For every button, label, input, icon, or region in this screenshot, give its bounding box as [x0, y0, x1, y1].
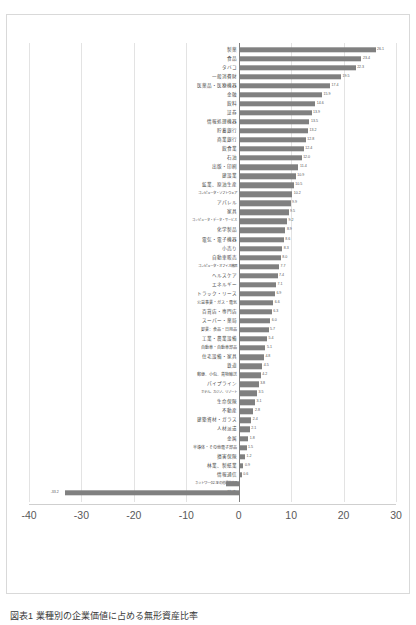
bar-category-label: 製薬	[227, 47, 237, 52]
x-tick-label: -30	[74, 509, 89, 521]
bar-row: パイプライン3.8	[7, 380, 411, 389]
bar	[239, 164, 299, 169]
bar	[239, 137, 306, 142]
bar	[239, 92, 322, 97]
bar-row: 半導体・その他電子部品1.5	[7, 443, 411, 452]
figure-caption: 図表1 業種別の企業価値に占める無形資産比率	[10, 609, 198, 622]
bar	[239, 427, 250, 432]
bar-row: 不動産2.8	[7, 407, 411, 416]
bar	[239, 65, 356, 70]
bar-category-label: コンピュータ・オフィス機器	[198, 265, 237, 269]
bar-row: コンピュータ・ソフトウェア10.2	[7, 190, 411, 199]
bar-row: 金融15.9	[7, 90, 411, 99]
bar	[239, 391, 257, 396]
bar-row: 飲料14.6	[7, 99, 411, 108]
bar	[239, 400, 255, 405]
bar-row: 損害保険1.2	[7, 452, 411, 461]
bar-row: コンピュータ・オフィス機器7.7	[7, 262, 411, 271]
bar-value-label: 12.8	[307, 138, 314, 142]
bar-row: ホテル、カジノ、リゾート3.5	[7, 389, 411, 398]
bar-row: 百貨店・専門店6.3	[7, 307, 411, 316]
bar	[239, 110, 312, 115]
bar	[239, 155, 302, 160]
bar-value-label: 4.5	[264, 364, 269, 368]
bar	[239, 327, 269, 332]
bar-category-label: 人材派遣	[217, 427, 237, 432]
bar-category-label: 商業銀行	[217, 138, 237, 143]
bar	[239, 291, 275, 296]
page-root: 製薬26.1食品23.4タバコ22.3一般消費財19.5医薬品・医療機器17.4…	[0, 0, 416, 625]
bar-value-label: 26.1	[377, 48, 384, 52]
x-tick-label: -10	[179, 509, 194, 521]
bar-row: 化学製品8.9	[7, 226, 411, 235]
bar-category-label: 化学製品	[217, 228, 237, 233]
bar-category-label: 自動車・自動車部品	[201, 346, 237, 350]
bar-value-label: 7.4	[279, 274, 284, 278]
bar-row: 郵便、小包、貨物輸送4.2	[7, 371, 411, 380]
bar-category-label: 鉄道	[227, 364, 237, 369]
bar-value-label: 13.9	[313, 111, 320, 115]
bar-value-label: 23.4	[363, 57, 370, 61]
bar-value-label: 12.0	[303, 156, 310, 160]
bar-category-label: 飲食業	[222, 147, 237, 152]
bar-row: 一般消費財19.5	[7, 72, 411, 81]
bar	[239, 373, 261, 378]
bar-row: エネルギー7.1	[7, 280, 411, 289]
bar	[239, 128, 308, 133]
bar-row: 家具9.5	[7, 208, 411, 217]
chart-card: 製薬26.1食品23.4タバコ22.3一般消費財19.5医薬品・医療機器17.4…	[6, 14, 410, 594]
bar-value-label: 11.4	[300, 165, 307, 169]
bar-row: 情報通信0.6	[7, 470, 411, 479]
bar-category-label: 損害保険	[217, 454, 237, 459]
bar-category-label: パイプライン	[207, 382, 237, 387]
bar-row: コンピュータ・データ・サービス9.2	[7, 217, 411, 226]
zero-axis-line	[239, 43, 240, 502]
bar-value-label: 15.9	[324, 93, 331, 97]
x-tick-label: -20	[126, 509, 141, 521]
bar-row: 鉄道4.5	[7, 362, 411, 371]
bar	[239, 409, 254, 414]
bar-row: ネットワーク、その他通信機器-2.5	[7, 479, 411, 488]
bar-value-label: 19.5	[342, 75, 349, 79]
bar-category-label: 食品	[227, 56, 237, 61]
bar	[239, 119, 310, 124]
bar	[239, 246, 283, 251]
bar-row: 医薬品・医療機器17.4	[7, 81, 411, 90]
bar	[239, 201, 291, 206]
x-tick-label: 30	[390, 509, 402, 521]
bar-value-label: 9.5	[290, 211, 295, 215]
bar	[239, 210, 289, 215]
bar	[65, 490, 239, 495]
bar-value-label: 8.6	[285, 238, 290, 242]
bar-category-label: 半導体・その他電子部品	[193, 446, 237, 450]
bar-value-label: -2.5	[212, 482, 218, 486]
bar-category-label: 卸業：食品・日用品	[201, 328, 237, 332]
bar-category-label: 電気・電子機器	[202, 237, 237, 242]
bar	[239, 74, 341, 79]
bar-row: 人材派遣2.1	[7, 425, 411, 434]
bar-row: 工業・農業設備5.4	[7, 335, 411, 344]
bar-value-label: 12.4	[305, 147, 312, 151]
bar-category-label: アパレル	[217, 201, 237, 206]
bar	[239, 363, 263, 368]
bar-row: 商業銀行12.8	[7, 135, 411, 144]
bar-value-label: 7.7	[281, 265, 286, 269]
bar-value-label: 3.1	[256, 401, 261, 405]
bar-category-label: 金融	[227, 92, 237, 97]
bar-row: 住宅設備・家具4.8	[7, 353, 411, 362]
x-tick-label: 0	[236, 509, 242, 521]
bar-chart-plot: 製薬26.1食品23.4タバコ22.3一般消費財19.5医薬品・医療機器17.4…	[7, 15, 411, 595]
bar-row: 航空-33.2	[7, 488, 411, 497]
bar-value-label: 10.2	[294, 192, 301, 196]
bar-category-label: 情報処理機器	[207, 120, 237, 125]
bar-row: 製薬26.1	[7, 45, 411, 54]
bar	[239, 47, 376, 52]
bar	[239, 345, 266, 350]
bar-row: アパレル9.9	[7, 199, 411, 208]
bar-category-label: スーパー・薬局	[202, 319, 237, 324]
bar-value-label: 8.0	[282, 256, 287, 260]
bar-value-label: 13.2	[309, 129, 316, 133]
x-axis-line	[29, 504, 396, 505]
bar-category-label: 石油	[227, 156, 237, 161]
bar-value-label: 7.1	[277, 283, 282, 287]
